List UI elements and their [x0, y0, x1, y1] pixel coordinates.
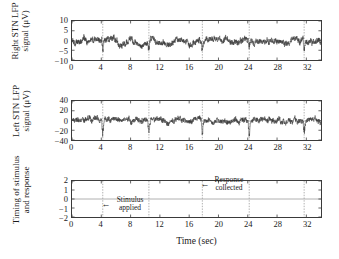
x-tick-label: 16: [185, 220, 194, 229]
y-tick-label: −10: [55, 57, 68, 66]
plot-area-right-stn-lfp: [72, 21, 321, 60]
x-tick-label: 4: [98, 143, 102, 152]
x-tick-label: 20: [214, 143, 223, 152]
y-axis-label-right-stn-lfp: Right STN LFP signal (μV): [11, 0, 31, 74]
x-tick-label: 16: [185, 63, 194, 72]
y-tick-label: −2: [59, 214, 68, 223]
x-tick-label: 24: [244, 143, 253, 152]
x-tick-label: 20: [214, 63, 223, 72]
y-tick-label: −40: [55, 137, 68, 146]
x-tick-label: 32: [303, 220, 312, 229]
y-tick-label: −1: [59, 204, 68, 213]
y-tick-label: 5: [64, 26, 68, 35]
x-tick-label: 32: [303, 63, 312, 72]
x-tick-label: 24: [244, 63, 253, 72]
x-tick-label: 4: [98, 63, 102, 72]
x-tick-label: 0: [69, 143, 73, 152]
panel-left-stn-lfp: 40200−20−40 048121620242832: [71, 100, 322, 141]
x-tick-label: 4: [98, 220, 102, 229]
y-tick-label: 0: [64, 36, 68, 45]
x-tick-label: 24: [244, 220, 253, 229]
y-axis-label-line1: Left STN LFP: [11, 85, 21, 137]
y-axis-label-line1: Timing of stimulus: [11, 156, 21, 225]
x-tick-label: 8: [128, 63, 132, 72]
y-axis-label-line2: signal (μV): [21, 0, 31, 74]
y-tick-label: 10: [60, 16, 69, 25]
panel-right-stn-lfp: 1050−5−10 048121620242832: [71, 20, 322, 61]
y-axis-label-timing-stimulus-response: Timing of stimulus and response: [12, 137, 32, 243]
y-tick-label: −20: [55, 127, 68, 136]
y-tick-label: −5: [59, 47, 68, 56]
y-axis-label-line2: and response: [22, 137, 32, 243]
y-axis-label-line1: Right STN LFP: [10, 2, 20, 59]
x-tick-label: 12: [155, 220, 164, 229]
axes-left-stn-lfp: [71, 100, 322, 141]
x-axis-label: Time (sec): [71, 236, 322, 246]
x-tick-label: 28: [273, 63, 282, 72]
y-tick-label: 40: [60, 96, 69, 105]
x-tick-label: 12: [155, 63, 164, 72]
x-tick-label: 8: [128, 220, 132, 229]
panel-timing-stimulus-response: 210−1−2 048121620242832 Stimulusapplied←…: [71, 180, 322, 218]
y-tick-label: 0: [64, 195, 68, 204]
x-tick-label: 16: [185, 143, 194, 152]
arrow-left-icon-response-collected: ←: [200, 180, 209, 189]
annotation-stimulus-applied: Stimulusapplied: [117, 197, 144, 213]
x-tick-label: 8: [128, 143, 132, 152]
y-tick-label: 2: [64, 176, 68, 185]
x-tick-label: 28: [273, 220, 282, 229]
lfp-stimulus-response-figure: 1050−5−10 048121620242832 Right STN LFP …: [0, 0, 339, 259]
x-tick-label: 0: [69, 220, 73, 229]
x-tick-label: 20: [214, 220, 223, 229]
y-tick-label: 20: [60, 106, 69, 115]
annotation-response-collected: Responsecollected: [215, 176, 244, 192]
annotation-line2: collected: [215, 184, 244, 192]
y-tick-label: 1: [64, 185, 68, 194]
x-tick-label: 28: [273, 143, 282, 152]
y-tick-label: 0: [64, 116, 68, 125]
plot-area-left-stn-lfp: [72, 101, 321, 140]
x-tick-label: 12: [155, 143, 164, 152]
axes-right-stn-lfp: [71, 20, 322, 61]
x-tick-label: 32: [303, 143, 312, 152]
x-tick-label: 0: [69, 63, 73, 72]
annotation-line2: applied: [117, 204, 144, 212]
arrow-left-icon-stimulus-applied: ←: [102, 200, 111, 209]
